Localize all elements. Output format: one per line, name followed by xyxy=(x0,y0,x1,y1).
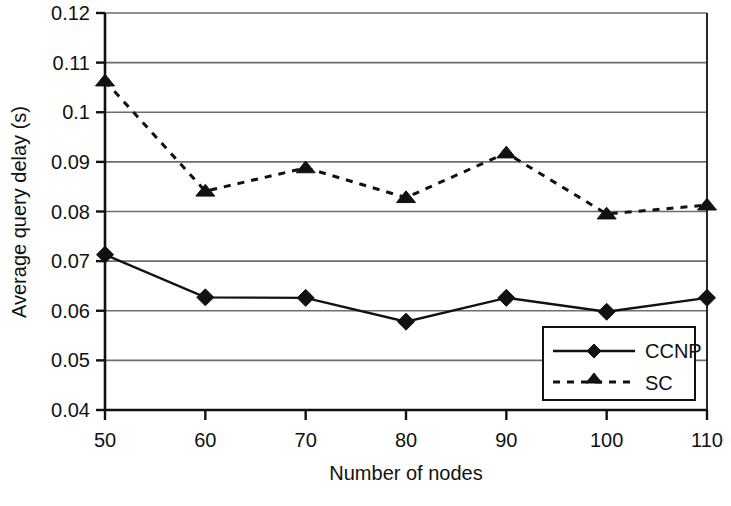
y-axis-tick-labels: 0.040.050.060.070.080.090.10.110.12 xyxy=(51,2,90,421)
x-axis-ticks xyxy=(105,410,707,420)
data-point-triangle xyxy=(296,161,315,173)
y-tick-label: 0.12 xyxy=(51,2,90,24)
x-axis-title: Number of nodes xyxy=(329,462,482,484)
data-point-diamond xyxy=(297,289,314,306)
x-tick-label: 90 xyxy=(495,429,517,451)
x-tick-label: 50 xyxy=(94,429,116,451)
y-tick-label: 0.1 xyxy=(62,101,90,123)
series-path xyxy=(105,255,707,322)
data-point-triangle xyxy=(698,198,717,210)
data-point-diamond xyxy=(598,303,615,320)
legend-label-ccnp: CCNP xyxy=(645,340,702,362)
x-axis-tick-labels: 5060708090100110 xyxy=(94,429,723,451)
data-point-diamond xyxy=(699,289,716,306)
series-ccnp xyxy=(97,246,716,330)
line-chart: 0.040.050.060.070.080.090.10.110.12 5060… xyxy=(0,0,731,506)
y-axis-ticks xyxy=(96,13,105,410)
y-tick-label: 0.07 xyxy=(51,250,90,272)
y-tick-label: 0.05 xyxy=(51,349,90,371)
x-tick-label: 60 xyxy=(194,429,216,451)
legend-label-sc: SC xyxy=(645,372,673,394)
chart-container: 0.040.050.060.070.080.090.10.110.12 5060… xyxy=(0,0,731,506)
y-tick-label: 0.08 xyxy=(51,201,90,223)
data-point-triangle xyxy=(96,74,115,86)
y-tick-label: 0.11 xyxy=(53,52,90,74)
y-tick-label: 0.09 xyxy=(51,151,90,173)
data-point-diamond xyxy=(197,289,214,306)
y-tick-label: 0.04 xyxy=(51,399,90,421)
x-tick-label: 100 xyxy=(590,429,623,451)
gridlines xyxy=(105,13,707,360)
data-point-triangle xyxy=(497,146,516,158)
data-point-diamond xyxy=(398,313,415,330)
y-axis-title: Average query delay (s) xyxy=(8,106,30,318)
data-point-diamond xyxy=(498,289,515,306)
x-tick-label: 70 xyxy=(295,429,317,451)
y-tick-label: 0.06 xyxy=(51,300,90,322)
x-tick-label: 110 xyxy=(691,429,723,451)
x-tick-label: 80 xyxy=(395,429,417,451)
series-sc xyxy=(96,74,717,219)
chart-legend: CCNP SC xyxy=(543,327,702,400)
